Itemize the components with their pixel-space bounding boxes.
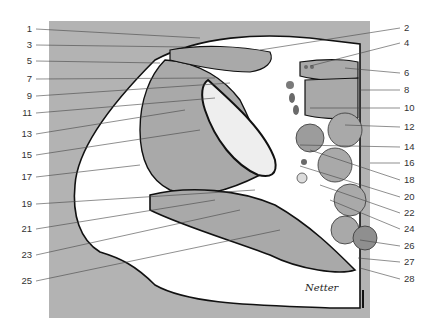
- label-20: 20: [404, 192, 415, 202]
- label-22: 22: [404, 208, 415, 218]
- artist-signature: Netter: [304, 282, 340, 293]
- label-28: 28: [404, 274, 415, 284]
- muscle-bundle: [353, 226, 377, 250]
- vessel: [289, 93, 295, 103]
- label-21: 21: [12, 224, 32, 234]
- label-2: 2: [404, 23, 409, 33]
- muscle-bundle: [334, 184, 366, 216]
- muscle-bundle: [296, 124, 324, 152]
- label-16: 16: [404, 158, 415, 168]
- label-10: 10: [404, 103, 415, 113]
- anatomical-figure: Netter 1 3 5 7 9 11 13 15 17 19 21 23 25…: [0, 0, 438, 332]
- label-12: 12: [404, 122, 415, 132]
- label-18: 18: [404, 175, 415, 185]
- label-23: 23: [12, 250, 32, 260]
- label-4: 4: [404, 38, 409, 48]
- label-24: 24: [404, 224, 415, 234]
- label-15: 15: [12, 150, 32, 160]
- label-14: 14: [404, 142, 415, 152]
- label-3: 3: [12, 40, 32, 50]
- label-19: 19: [12, 199, 32, 209]
- label-6: 6: [404, 68, 409, 78]
- label-26: 26: [404, 241, 415, 251]
- label-11: 11: [12, 108, 32, 118]
- muscle-bundle: [328, 113, 362, 147]
- label-17: 17: [12, 172, 32, 182]
- label-7: 7: [12, 74, 32, 84]
- muscle-right-upper: [300, 60, 358, 80]
- cross-section-illustration: Netter: [0, 0, 438, 332]
- label-9: 9: [12, 91, 32, 101]
- label-5: 5: [12, 56, 32, 66]
- vessel: [297, 173, 307, 183]
- label-27: 27: [404, 257, 415, 267]
- vessel: [304, 65, 308, 69]
- label-25: 25: [12, 276, 32, 286]
- vessel: [286, 81, 294, 89]
- muscle-right-large: [305, 78, 358, 119]
- vessel: [293, 105, 299, 115]
- vessel: [301, 159, 307, 165]
- label-8: 8: [404, 85, 409, 95]
- label-13: 13: [12, 129, 32, 139]
- label-1: 1: [12, 24, 32, 34]
